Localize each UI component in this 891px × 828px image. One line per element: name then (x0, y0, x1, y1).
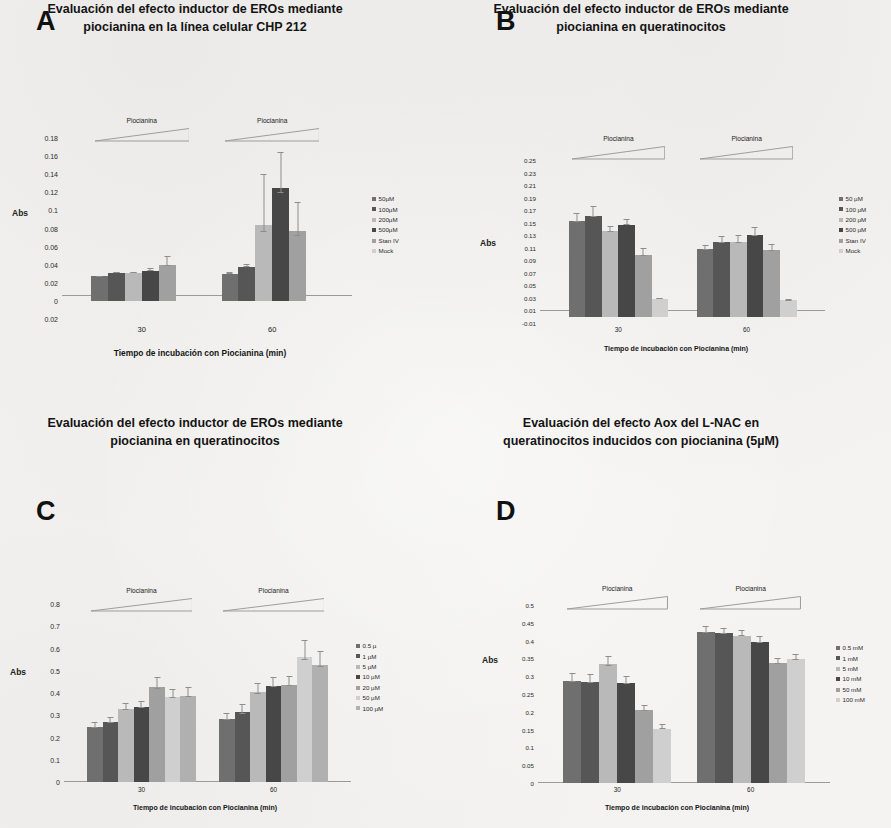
legend-label: 50 µM (846, 196, 863, 202)
legend-item: Mock (372, 248, 399, 254)
bar-fill (250, 692, 266, 782)
y-tick-label: 0.13 (492, 232, 536, 239)
x-tick-label: 30 (138, 325, 146, 334)
y-tick-label: 0.25 (492, 691, 534, 698)
bar-group (87, 604, 196, 782)
legend-label: Stan IV (846, 238, 866, 244)
wedge-triangle-icon (223, 598, 324, 612)
y-tick-label: 0.02 (14, 316, 58, 323)
bar-fill (787, 659, 805, 783)
y-tick-label: 0.05 (492, 762, 534, 769)
x-tick-label: 60 (743, 326, 750, 333)
bar-fill (103, 722, 119, 782)
error-bar (167, 256, 168, 266)
legend-label: 100 µM (363, 706, 384, 712)
panel-d: D Evaluación del efecto Aox del L-NAC en… (446, 414, 891, 828)
panel-a-x-axis-title: Tiempo de incubación con Piocianina (min… (40, 348, 360, 358)
y-tick-label: 0.02 (14, 279, 58, 286)
legend-swatch-icon (836, 688, 840, 692)
x-tick-label: 30 (614, 786, 621, 793)
legend-swatch-icon (836, 698, 840, 702)
y-tick-label: 0.7 (20, 623, 60, 630)
panel-c-plot: Abs 0.80.70.60.50.40.30.20.10 Piocianina… (0, 414, 446, 828)
legend-label: 10 µM (363, 674, 380, 680)
error-bar (626, 676, 627, 684)
bar-fill (569, 221, 586, 317)
panel-a-legend: 50µM100µM200µM500µMStan IVMock (372, 196, 399, 258)
legend-swatch-icon (839, 197, 843, 201)
piocianina-gradient-wedge: Piocianina (700, 596, 800, 610)
bar-fill (769, 663, 787, 783)
y-tick-label: 0.08 (14, 225, 58, 232)
y-tick-label: 0.11 (492, 244, 536, 251)
bar-fill (715, 633, 733, 783)
legend-swatch-icon (356, 675, 360, 679)
wedge-triangle-icon (572, 146, 665, 160)
wedge-label: Piocianina (127, 117, 157, 124)
y-tick-label: 0.18 (14, 135, 58, 142)
legend-swatch-icon (839, 228, 843, 232)
bar-fill (272, 188, 289, 301)
legend-swatch-icon (836, 667, 840, 671)
bar-fill (618, 225, 635, 317)
wedge-label: Piocianina (603, 135, 633, 142)
legend-item: 10 µM (356, 674, 383, 680)
legend-item: 200µM (372, 217, 399, 223)
legend-item: 5 µM (356, 664, 383, 670)
bar-fill (238, 267, 255, 301)
legend-item: 50 mM (836, 687, 865, 693)
legend-label: 50µM (379, 196, 395, 202)
x-tick-label: 30 (615, 326, 622, 333)
legend-swatch-icon (372, 239, 376, 243)
bar-fill (653, 729, 671, 783)
wedge-label: Piocianina (731, 135, 761, 142)
bar-fill (747, 235, 764, 317)
y-tick-label: 0.3 (492, 673, 534, 680)
y-tick-label: 0.15 (492, 726, 534, 733)
bar-group (219, 604, 328, 782)
y-tick-label: 0.1 (492, 744, 534, 751)
bar-fill (87, 727, 103, 782)
legend-swatch-icon (356, 665, 360, 669)
error-bar (741, 630, 742, 637)
error-bar (771, 244, 772, 251)
bar-group (563, 605, 671, 783)
legend-swatch-icon (839, 239, 843, 243)
legend-item: 50µM (372, 196, 399, 202)
piocianina-gradient-wedge: Piocianina (700, 146, 793, 160)
legend-item: 500 µM (839, 227, 866, 233)
legend-item: Stan IV (839, 238, 866, 244)
error-bar (297, 202, 298, 235)
y-tick-label: 0.19 (492, 194, 536, 201)
bar-fill (159, 265, 176, 301)
error-bar (626, 219, 627, 225)
legend-label: 100 mM (843, 697, 865, 703)
panel-b-plot-area (540, 160, 825, 323)
bar-fill (266, 686, 282, 782)
legend-item: 0.5 mM (836, 645, 865, 651)
bar-fill (602, 231, 619, 316)
bar-group (222, 138, 324, 319)
y-tick-label: 0.1 (20, 756, 60, 763)
bar-fill (751, 642, 769, 783)
error-bar (738, 235, 739, 243)
bar-fill (297, 657, 313, 782)
bar-fill (108, 273, 125, 301)
legend-swatch-icon (372, 197, 376, 201)
y-tick-label: 0 (492, 780, 534, 787)
legend-label: 200µM (379, 217, 398, 223)
bar-fill (222, 274, 239, 301)
error-bar (705, 245, 706, 249)
error-bar (320, 651, 321, 666)
y-tick-label: 0.2 (20, 734, 60, 741)
bar-fill (599, 664, 617, 783)
y-tick-label: -0.01 (492, 320, 536, 327)
legend-label: 100 µM (846, 207, 867, 213)
wedge-label: Piocianina (258, 587, 288, 594)
legend-swatch-icon (356, 696, 360, 700)
y-tick-label: 0.01 (492, 307, 536, 314)
legend-label: Mock (846, 248, 861, 254)
bar-fill (118, 709, 134, 782)
panel-b: B Evaluación del efecto inductor de EROs… (446, 0, 891, 414)
error-bar (157, 677, 158, 689)
